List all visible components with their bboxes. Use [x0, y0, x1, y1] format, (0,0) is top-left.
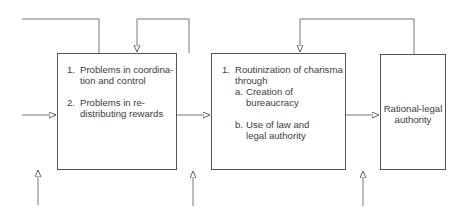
feedback-line-middle: [137, 19, 189, 53]
sub-item: a. Creation of bureaucracy: [235, 86, 346, 108]
feedback-line-left: [22, 19, 99, 53]
sub-item: b. Use of law and legal authority: [235, 119, 346, 141]
box-rational-legal-text: Rational-legal authority: [380, 103, 446, 125]
box-problems-text: 1. Problems in coordina- tion and contro…: [67, 64, 177, 119]
list-item: 2. Problems in re- distributing rewards: [67, 97, 177, 119]
list-item: 1. Routinization of charisma through a. …: [222, 64, 346, 141]
list-item: 1. Problems in coordina- tion and contro…: [67, 64, 177, 86]
feedback-line-right: [300, 19, 414, 54]
box-routinization-text: 1. Routinization of charisma through a. …: [222, 64, 346, 141]
